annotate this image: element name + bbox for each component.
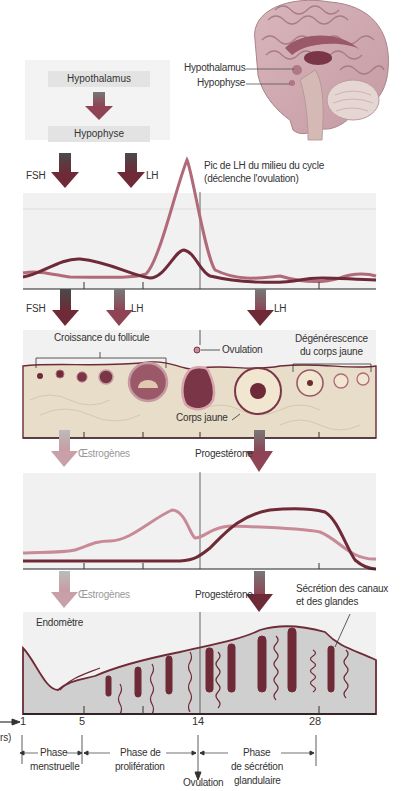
day-14-label: 14 [192, 715, 204, 727]
hypothalamus-to-hypophyse-arrow [85, 92, 113, 120]
phase-proliferation-1: Phase de [120, 747, 161, 758]
phase-secretion-1: Phase [243, 747, 270, 758]
phase-secretion-2: de sécrétion [231, 761, 283, 772]
progesterone-label-1: Progestérone [195, 448, 253, 459]
phase-proliferation-2: prolifération [115, 761, 165, 772]
corpus-luteum-label: Corps jaune [176, 412, 228, 423]
estrogen-label-1: Œstrogènes [78, 448, 130, 459]
lh-label-top: LH [146, 170, 158, 181]
brain-illustration [246, 0, 388, 140]
ovulation-timeline-label: Ovulation [183, 777, 223, 788]
lh-arrow-top [117, 153, 145, 188]
brain-label-hypophyse: Hypophyse [197, 77, 245, 88]
fsh-arrow-top [51, 153, 79, 188]
fsh-label-top: FSH [26, 170, 45, 181]
brain-label-hypothalamus: Hypothalamus [184, 62, 246, 73]
fsh-label-ovary: FSH [26, 303, 45, 314]
day-1-label: 1 [20, 715, 26, 727]
phase-menstrual-1: Phase [40, 747, 67, 758]
phase-secretion-3: glandulaire [234, 775, 281, 786]
day-5-label: 5 [79, 715, 85, 727]
ovulation-label: Ovulation [222, 344, 262, 355]
lh-peak-annotation-1: Pic de LH du milieu du cycle [204, 160, 324, 171]
axis-unit-fragment: rs) [0, 732, 11, 743]
fsh-arrow-ovary [52, 289, 79, 326]
secretion-label-1: Sécrétion des canaux [296, 583, 388, 594]
day-28-label: 28 [309, 715, 321, 727]
pituitary-hormone-panel [23, 193, 376, 289]
lh-arrow-ovary-2 [247, 289, 274, 326]
lh-label-ovary-1: LH [131, 303, 143, 314]
phase-menstrual-2: menstruelle [30, 761, 80, 772]
lh-peak-annotation-2: (déclenche l'ovulation) [204, 173, 299, 184]
progesterone-label-2: Progestérone [195, 589, 253, 600]
lh-label-ovary-2: LH [274, 303, 286, 314]
secretion-label-2: et des glandes [296, 596, 358, 607]
degeneration-label-1: Dégénérescence [295, 333, 368, 344]
diagram-canvas [0, 0, 401, 791]
estrogen-label-2: Œstrogènes [78, 589, 130, 600]
endometrium-label: Endomètre [36, 617, 83, 628]
follicle-growth-label: Croissance du follicule [54, 332, 149, 343]
lh-arrow-ovary-1 [106, 289, 133, 326]
degeneration-label-2: du corps jaune [300, 346, 363, 357]
estrogen-arrow-2 [51, 571, 78, 608]
